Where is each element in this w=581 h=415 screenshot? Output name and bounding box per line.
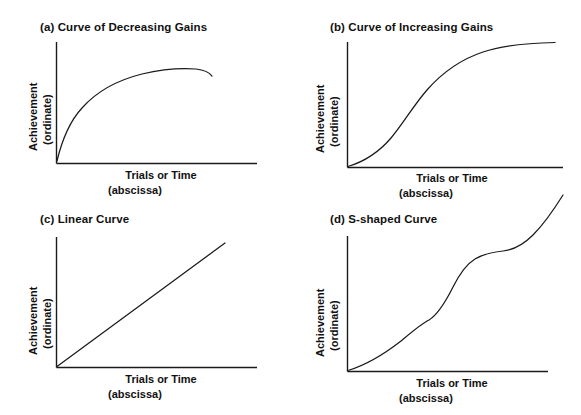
panel-d: (d) S-shaped Curve Achievement (ordinate… bbox=[291, 207, 581, 415]
panel-b-curve bbox=[348, 43, 555, 167]
panel-d-xlabel-trials: Trials or Time bbox=[397, 377, 507, 389]
panel-d-xlabel-abscissa: (abscissa) bbox=[399, 392, 453, 404]
panel-b-xlabel-trials: Trials or Time bbox=[397, 172, 507, 184]
panel-c-line bbox=[57, 243, 225, 367]
panel-b: (b) Curve of Increasing Gains Achievemen… bbox=[291, 0, 581, 207]
panel-a: (a) Curve of Decreasing Gains Achievemen… bbox=[0, 0, 290, 207]
panel-c: (c) Linear Curve Achievement (ordinate) … bbox=[0, 207, 290, 415]
figure-canvas: (a) Curve of Decreasing Gains Achievemen… bbox=[0, 0, 581, 415]
panel-a-xlabel-trials: Trials or Time bbox=[106, 169, 216, 181]
panel-b-xlabel-abscissa: (abscissa) bbox=[399, 187, 453, 199]
panel-d-curve bbox=[348, 195, 563, 371]
panel-a-xlabel-abscissa: (abscissa) bbox=[108, 184, 162, 196]
panel-a-curve bbox=[57, 69, 212, 161]
panel-c-xlabel-abscissa: (abscissa) bbox=[108, 388, 162, 400]
panel-c-xlabel-trials: Trials or Time bbox=[106, 373, 216, 385]
